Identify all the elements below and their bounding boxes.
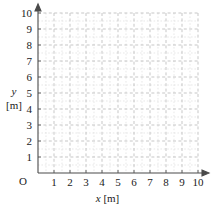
y-tick-label-3: 3 <box>6 120 32 131</box>
y-tick-label-6: 6 <box>6 72 32 83</box>
x-axis-unit: [m] <box>103 192 119 204</box>
axis-lines <box>35 4 209 176</box>
x-tick-label-10: 10 <box>188 177 208 188</box>
y-axis-symbol: y <box>0 84 28 98</box>
y-tick-label-9: 9 <box>6 24 32 35</box>
y-axis-arrowhead <box>35 4 41 11</box>
y-tick-label-10: 10 <box>6 8 32 19</box>
coordinate-grid-figure: 10 9 8 7 6 5 4 3 2 1 1 2 3 4 5 6 7 8 9 1… <box>0 0 215 211</box>
y-tick-label-7: 7 <box>6 56 32 67</box>
y-tick-label-1: 1 <box>6 152 32 163</box>
y-axis-title: y [m] <box>0 84 28 112</box>
y-tick-label-8: 8 <box>6 40 32 51</box>
y-axis-unit: [m] <box>0 98 28 112</box>
origin-label: O <box>19 176 27 187</box>
y-tick-label-2: 2 <box>6 136 32 147</box>
x-axis-title: x [m] <box>0 192 215 204</box>
